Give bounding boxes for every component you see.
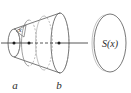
cross-section-volume-figure: x a b S(x) xyxy=(0,0,131,93)
label-left-bound: a xyxy=(12,79,18,91)
marker-a-dot xyxy=(13,42,16,45)
label-right-bound: b xyxy=(56,79,62,91)
marker-x-dot xyxy=(28,42,31,45)
label-cross-section-area: S(x) xyxy=(102,38,119,50)
frustum-bottom-edge xyxy=(14,57,60,73)
figure-canvas: x a b S(x) xyxy=(0,0,131,93)
marker-b-dot xyxy=(58,42,61,45)
